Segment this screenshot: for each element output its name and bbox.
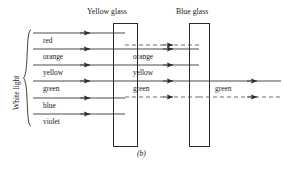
glass-panes bbox=[114, 24, 210, 147]
incident-label-red: red bbox=[43, 37, 52, 44]
incident-label-violet: violet bbox=[43, 118, 60, 125]
optics-color-filter-diagram: Yellow glass Blue glass red orange yello… bbox=[0, 0, 283, 170]
middle-label-yellow: yellow bbox=[133, 69, 153, 76]
blue-glass-pane bbox=[190, 24, 210, 147]
middle-label-orange: orange bbox=[133, 53, 153, 60]
incident-label-blue: blue bbox=[43, 102, 56, 109]
incident-ray-arrowheads bbox=[80, 33, 90, 114]
white-light-bracket bbox=[24, 30, 32, 126]
middle-label-green: green bbox=[133, 85, 149, 92]
white-light-label: White light bbox=[13, 76, 21, 110]
incident-label-yellow: yellow bbox=[43, 69, 63, 76]
exit-label-green: green bbox=[215, 85, 231, 92]
figure-caption: (b) bbox=[137, 150, 146, 158]
yellow-glass-title: Yellow glass bbox=[87, 8, 127, 16]
middle-ray-arrowheads bbox=[163, 49, 173, 81]
incident-label-orange: orange bbox=[43, 53, 63, 60]
incident-label-green: green bbox=[43, 85, 59, 92]
blue-glass-title: Blue glass bbox=[176, 8, 208, 16]
